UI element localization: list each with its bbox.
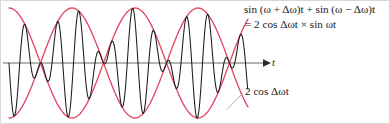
envelope-label-leader-line [227,94,243,110]
envelope-annotation-label: 2 cos Δωt [245,84,289,99]
beat-formula-annotation: sin (ω + Δω)t + sin (ω − Δω)t = 2 cos Δω… [244,2,375,32]
beats-waveform-figure: sin (ω + Δω)t + sin (ω − Δω)t = 2 cos Δω… [0,0,390,124]
beat-formula-line-2: = 2 cos Δωt × sin ωt [244,17,375,32]
axis-label-t: t [272,56,275,70]
axis-arrowhead [263,59,271,67]
beat-formula-line-1: sin (ω + Δω)t + sin (ω − Δω)t [244,3,375,15]
